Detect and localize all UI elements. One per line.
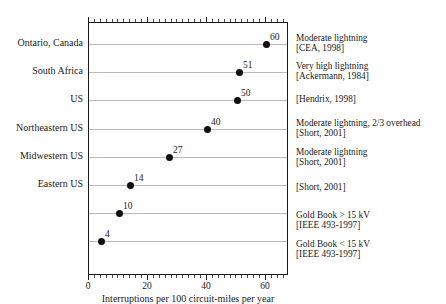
x-tick-minor xyxy=(94,275,95,278)
x-tick-minor xyxy=(188,275,189,278)
x-tick-label: 40 xyxy=(201,281,211,291)
x-tick-minor xyxy=(271,19,272,22)
annotation-7-line2: [IEEE 493-1997] xyxy=(296,220,370,230)
annotation-5-line1: Moderate lightning xyxy=(296,147,368,157)
x-tick-minor xyxy=(241,275,242,278)
annotation-7-line1: Gold Book > 15 kV xyxy=(296,210,370,220)
x-tick-minor xyxy=(235,275,236,278)
x-tick-minor xyxy=(212,19,213,22)
x-tick-major xyxy=(147,17,148,22)
data-point-4 xyxy=(204,126,211,133)
x-tick-minor xyxy=(182,275,183,278)
x-tick-minor xyxy=(159,275,160,278)
x-tick-minor xyxy=(159,19,160,22)
x-tick-minor xyxy=(100,275,101,278)
category-label-northeastern-us: Northeastern US xyxy=(16,123,83,133)
annotation-1: Moderate lightning [CEA, 1998] xyxy=(296,33,368,54)
data-point-8 xyxy=(98,238,105,245)
category-label-ontario-canada: Ontario, Canada xyxy=(17,38,83,48)
x-tick-label: 60 xyxy=(260,281,270,291)
x-tick-minor xyxy=(277,275,278,278)
x-tick-minor xyxy=(176,19,177,22)
x-tick-minor xyxy=(253,275,254,278)
x-tick-label: 0 xyxy=(86,281,91,291)
category-label-south-africa: South Africa xyxy=(32,66,83,76)
x-tick-minor xyxy=(100,19,101,22)
data-point-2 xyxy=(236,69,243,76)
x-tick-minor xyxy=(171,19,172,22)
x-tick-minor xyxy=(117,275,118,278)
x-tick-minor xyxy=(94,19,95,22)
gridline-8 xyxy=(89,241,287,242)
data-point-3 xyxy=(234,97,241,104)
x-tick-minor xyxy=(171,275,172,278)
annotation-8-line1: Gold Book < 15 kV xyxy=(296,239,370,249)
annotation-4-line1: Moderate lightning, 2/3 overhead xyxy=(296,118,420,128)
data-point-6 xyxy=(127,182,134,189)
annotation-2: Very high lightning [Ackermann, 1984] xyxy=(296,61,369,82)
data-label-3: 50 xyxy=(241,89,251,99)
x-tick-major xyxy=(265,275,266,280)
x-tick-minor xyxy=(241,19,242,22)
category-label-us: US xyxy=(70,94,83,104)
x-tick-minor xyxy=(194,19,195,22)
x-tick-minor xyxy=(129,19,130,22)
annotation-7: Gold Book > 15 kV [IEEE 493-1997] xyxy=(296,210,370,231)
x-tick-minor xyxy=(117,19,118,22)
x-axis-title: Interruptions per 100 circuit-miles per … xyxy=(88,293,288,304)
x-tick-minor xyxy=(218,275,219,278)
x-tick-minor xyxy=(253,19,254,22)
plot-area: 60 51 50 40 27 14 10 4 xyxy=(88,22,288,275)
x-tick-minor xyxy=(224,275,225,278)
x-tick-minor xyxy=(141,19,142,22)
data-point-1 xyxy=(263,41,270,48)
x-tick-minor xyxy=(235,19,236,22)
gridline-1 xyxy=(89,44,287,45)
x-tick-major xyxy=(206,17,207,22)
data-point-7 xyxy=(116,210,123,217)
gridline-6 xyxy=(89,185,287,186)
x-tick-minor xyxy=(176,275,177,278)
data-label-7: 10 xyxy=(123,202,133,212)
x-tick-minor xyxy=(230,275,231,278)
annotation-1-line2: [CEA, 1998] xyxy=(296,43,368,53)
x-tick-minor xyxy=(194,275,195,278)
x-tick-minor xyxy=(277,19,278,22)
x-tick-minor xyxy=(271,275,272,278)
annotation-1-line1: Moderate lightning xyxy=(296,33,368,43)
annotation-2-line2: [Ackermann, 1984] xyxy=(296,71,369,81)
x-tick-minor xyxy=(123,19,124,22)
annotation-4: Moderate lightning, 2/3 overhead [Short,… xyxy=(296,118,420,139)
annotation-8-line2: [IEEE 493-1997] xyxy=(296,249,370,259)
x-tick-major xyxy=(147,275,148,280)
annotation-6: [Short, 2001] xyxy=(296,182,346,192)
x-tick-minor xyxy=(247,19,248,22)
x-tick-minor xyxy=(218,19,219,22)
x-tick-minor xyxy=(200,19,201,22)
x-tick-minor xyxy=(141,275,142,278)
x-tick-minor xyxy=(188,19,189,22)
gridline-2 xyxy=(89,72,287,73)
annotation-column: Moderate lightning [CEA, 1998] Very high… xyxy=(296,0,446,303)
x-tick-minor xyxy=(283,275,284,278)
x-tick-minor xyxy=(123,275,124,278)
x-tick-major xyxy=(206,275,207,280)
x-tick-minor xyxy=(247,275,248,278)
category-label-midwestern-us: Midwestern US xyxy=(20,151,83,161)
x-tick-minor xyxy=(283,19,284,22)
x-tick-label: 20 xyxy=(142,281,152,291)
x-tick-minor xyxy=(153,275,154,278)
annotation-4-line2: [Short, 2001] xyxy=(296,128,420,138)
data-label-4: 40 xyxy=(211,118,221,128)
x-tick-minor xyxy=(200,275,201,278)
data-label-5: 27 xyxy=(173,146,183,156)
gridline-5 xyxy=(89,157,287,158)
annotation-5: Moderate lightning [Short, 2001] xyxy=(296,147,368,168)
data-label-1: 60 xyxy=(270,33,280,43)
x-tick-major xyxy=(88,17,89,22)
x-tick-minor xyxy=(182,19,183,22)
gridline-3 xyxy=(89,100,287,101)
x-tick-minor xyxy=(106,19,107,22)
x-tick-minor xyxy=(153,19,154,22)
